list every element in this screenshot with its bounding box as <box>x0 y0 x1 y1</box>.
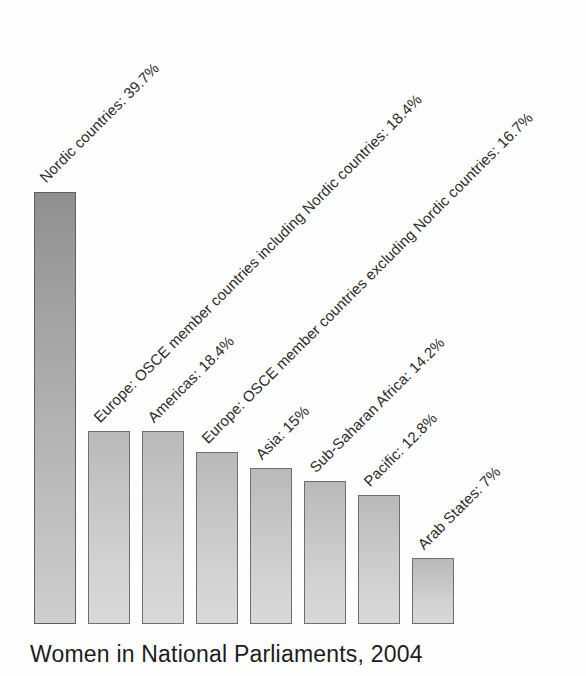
bar-asia <box>250 468 292 624</box>
bar-europe-including-nordic <box>88 431 130 624</box>
bar-label-nordic-countries: Nordic countries: 39.7% <box>37 60 162 185</box>
bar-europe-excluding-nordic <box>196 452 238 624</box>
bar-label-sub-saharan-africa: Sub-Saharan Africa: 14.2% <box>307 334 447 474</box>
bar-arab-states <box>412 558 454 624</box>
chart-container: Nordic countries: 39.7% Europe: OSCE mem… <box>0 0 586 676</box>
plot-area: Nordic countries: 39.7% Europe: OSCE mem… <box>0 0 586 676</box>
bar-nordic-countries <box>34 192 76 624</box>
bar-pacific <box>358 495 400 624</box>
chart-title: Women in National Parliaments, 2004 <box>30 640 423 668</box>
bar-americas <box>142 431 184 624</box>
bar-label-asia: Asia: 15% <box>253 403 312 462</box>
bar-label-arab-states: Arab States: 7% <box>415 463 503 551</box>
bar-label-pacific: Pacific: 12.8% <box>361 410 440 489</box>
bar-sub-saharan-africa <box>304 481 346 624</box>
